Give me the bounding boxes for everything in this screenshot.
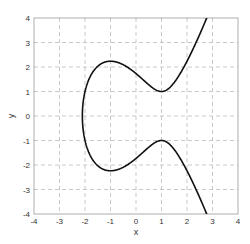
y-tick-label: 2 bbox=[26, 63, 31, 72]
x-tick-label: 4 bbox=[236, 217, 241, 226]
y-tick-label: 1 bbox=[26, 88, 31, 97]
x-tick-label: -3 bbox=[56, 217, 64, 226]
tick-labels: -4-3-2-101234-4-3-2-101234 bbox=[23, 14, 241, 226]
curve-lower-branch bbox=[82, 116, 207, 215]
x-tick-label: 2 bbox=[185, 217, 190, 226]
x-tick-label: 0 bbox=[134, 217, 139, 226]
x-tick-label: -4 bbox=[30, 217, 38, 226]
y-tick-label: 4 bbox=[26, 14, 31, 23]
y-tick-label: -2 bbox=[23, 161, 31, 170]
y-axis-label: y bbox=[6, 113, 16, 118]
y-tick-label: -1 bbox=[23, 137, 31, 146]
x-tick-label: -1 bbox=[107, 217, 115, 226]
y-tick-label: 3 bbox=[26, 39, 31, 48]
x-axis-label: x bbox=[134, 227, 139, 237]
y-tick-label: 0 bbox=[26, 112, 31, 121]
y-tick-label: -4 bbox=[23, 210, 31, 219]
y-tick-label: -3 bbox=[23, 186, 31, 195]
x-tick-label: 1 bbox=[159, 217, 164, 226]
grid-lines bbox=[34, 18, 238, 214]
curve-upper-branch bbox=[82, 17, 207, 116]
x-tick-label: -2 bbox=[81, 217, 89, 226]
elliptic-curve-chart: -4-3-2-101234-4-3-2-101234 x y bbox=[0, 0, 250, 244]
x-tick-label: 3 bbox=[210, 217, 215, 226]
